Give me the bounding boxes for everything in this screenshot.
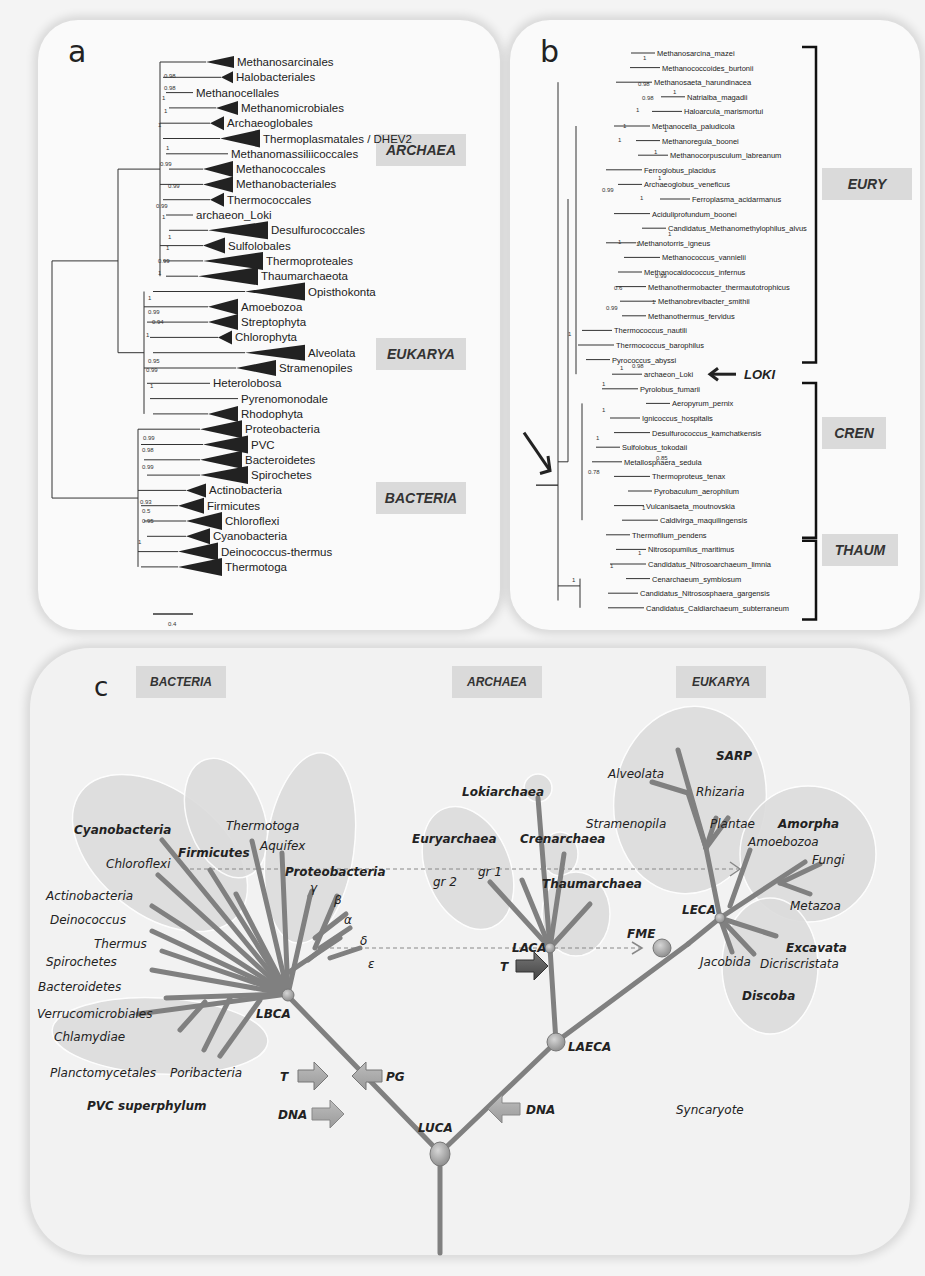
tree-b-taxon-label: Methanococcoides_burtonii [662, 64, 754, 73]
label-alveolata: Alveolata [607, 767, 664, 781]
tree-b-taxon-label: Methanoregula_boonei [662, 137, 739, 146]
tree-a-support-value: 0.95 [142, 518, 154, 524]
label-stramenopila: Stramenopila [586, 817, 666, 831]
tree-b-taxon-label: Aciduliprofundum_boonei [652, 210, 737, 219]
tree-a-taxon-label: PVC [251, 439, 275, 451]
tree-a-taxon-label: Desulfurococcales [271, 224, 365, 236]
label-arrow-dna-bacteria: DNA [278, 1108, 307, 1122]
tree-a-taxon-label: Methanomicrobiales [241, 102, 344, 114]
tree-a-support-value: 0.99 [156, 203, 168, 209]
tree-a-taxon-label: Opisthokonta [308, 286, 376, 298]
panel-a: a ARCHAEA EUKARYA BACTERIA Methanosarcin… [38, 20, 500, 630]
label-chloroflexi: Chloroflexi [106, 857, 171, 871]
tree-b-support-value: 0.98 [642, 95, 654, 101]
tree-b-taxon-label: Methanosarcina_mazei [657, 49, 735, 58]
tree-a-collapsed-clade [208, 299, 238, 315]
tree-b-support-value: 1 [618, 239, 622, 245]
node-leca [715, 913, 725, 923]
tree-a-collapsed-clade [178, 498, 204, 514]
tree-b-support-value: 1 [618, 137, 622, 143]
tree-a-support-value: 1 [158, 270, 162, 276]
tree-a-taxon-label: Proteobacteria [245, 423, 320, 435]
tree-b-support-value: 1 [568, 331, 572, 337]
tree-a-support-value: 1 [138, 539, 142, 545]
tree-a-collapsed-clade [218, 330, 232, 344]
tree-b-taxon-label: Methanothermus_fervidus [648, 312, 735, 321]
label-amorpha: Amorpha [777, 817, 839, 831]
tree-a-taxon-label: Halobacteriales [236, 71, 316, 83]
tree-b-support-value: 0.6 [614, 285, 623, 291]
tree-a-support-value: 0.99 [160, 161, 172, 167]
label-arrow-pg: PG [386, 1070, 405, 1084]
tree-a-taxon-label: Sulfolobales [228, 240, 291, 252]
label-verrucomicrobiales: Verrucomicrobiales [37, 1007, 152, 1021]
tree-b-support-value: 1 [572, 577, 576, 583]
tree-a-taxon-label: Cyanobacteria [213, 530, 288, 542]
tree-b-taxon-label: Desulfurococcus_kamchatkensis [652, 429, 761, 438]
tree-b-support-value: 1 [596, 435, 600, 441]
tree-b-taxon-label: Candidatus_Caldiarchaeum_subterraneum [646, 604, 789, 613]
tree-a-taxon-label: Thermoplasmatales / DHEV2 [263, 133, 412, 145]
arrow-dna-bacteria-icon [312, 1100, 344, 1128]
tree-a-support-value: 0.99 [142, 464, 154, 470]
tree-b-taxon-label: Cenarchaeum_symbiosum [652, 575, 741, 584]
tree-a-support-value: 1 [146, 332, 150, 338]
tree-a-taxon-label: Methanosarcinales [237, 56, 334, 68]
tree-a-support-value: 0.99 [168, 183, 180, 189]
tree-b-taxon-label: Vulcanisaeta_moutnovskia [646, 502, 736, 511]
label-leca: LECA [682, 903, 716, 917]
tree-a-collapsed-clade [208, 221, 268, 239]
tree-a-collapsed-clade [208, 406, 238, 422]
tree-b-taxon-label: Thermococcus_nautili [614, 326, 687, 335]
label-crenarchaea: Crenarchaea [520, 832, 605, 846]
label-cyanobacteria: Cyanobacteria [74, 823, 171, 837]
tree-b-taxon-label: Thermofilum_pendens [632, 531, 707, 540]
tree-a-support-value: 0.95 [148, 358, 160, 364]
tree-a-support-value: 1 [168, 234, 172, 240]
tree-b-support-value: 1 [640, 195, 644, 201]
label-arrow-dna-archaea: DNA [526, 1103, 555, 1117]
bracket-eury [802, 47, 816, 363]
tree-a-support-value: 1 [162, 214, 166, 220]
label-beta: β [333, 893, 342, 907]
tree-a-support-value: 1 [148, 295, 152, 301]
tree-b-taxon-label: Methanotorris_igneus [638, 239, 710, 248]
tree-b-support-value: 1 [602, 407, 606, 413]
tree-a-collapsed-clade [245, 345, 305, 361]
tree-b-root-arrow-icon [524, 433, 550, 471]
tree-b-taxon-label: Pyrobaculum_aerophilum [654, 487, 739, 496]
tree-a-collapsed-clade [178, 558, 222, 576]
phylogeny-tree-a: MethanosarcinalesHalobacterialesMethanoc… [38, 20, 500, 630]
tree-b-support-value: 0.98 [638, 81, 650, 87]
label-bacteroidetes: Bacteroidetes [38, 980, 121, 994]
tree-a-taxon-label: Rhodophyta [241, 408, 304, 420]
node-lbca [282, 989, 294, 1001]
tree-b-support-value: 0.78 [588, 469, 600, 475]
tree-b-support-value: 1 [652, 299, 656, 305]
tree-a-collapsed-clade [203, 436, 248, 454]
tree-b-taxon-label: Methanococcus_vannielii [662, 253, 746, 262]
blob-euryarchaea [405, 793, 531, 943]
tree-a-collapsed-clade [208, 314, 238, 330]
bracket-cren [802, 383, 816, 538]
tree-a-taxon-label: Thermococcales [227, 194, 312, 206]
tree-b-taxon-label: Pyrococcus_abyssi [612, 356, 677, 365]
label-laeca: LAECA [568, 1040, 611, 1054]
label-poribacteria: Poribacteria [170, 1066, 242, 1080]
tree-a-collapsed-clade [221, 71, 233, 83]
label-epsilon: ε [368, 957, 375, 971]
tree-b-taxon-label: Pyrolobus_fumarii [640, 385, 700, 394]
tree-b-taxon-label: archaeon_Loki [644, 370, 694, 379]
tree-b-taxon-label: Thermoproteus_tenax [652, 472, 726, 481]
tree-b-taxon-label: Candidatus_Nitrosoarchaeum_limnia [648, 560, 772, 569]
tree-a-taxon-label: Pyrenomonodale [241, 393, 328, 405]
tree-a-collapsed-clade [186, 512, 222, 530]
tree-a-collapsed-clade [198, 267, 258, 285]
tree-b-taxon-label: Candidatus_Methanomethylophilus_alvus [668, 224, 807, 233]
tree-a-collapsed-clade [186, 528, 210, 544]
label-laca: LACA [512, 941, 547, 955]
tree-b-taxon-label: Aeropyrum_pernix [672, 399, 734, 408]
tree-a-taxon-label: Streptophyta [241, 316, 307, 328]
label-fme: FME [627, 927, 656, 941]
tree-a-collapsed-clade [178, 543, 218, 561]
